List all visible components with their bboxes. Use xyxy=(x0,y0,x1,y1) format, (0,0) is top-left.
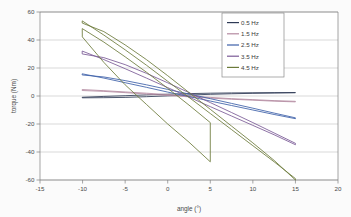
legend-label-3-5-hz: 3.5 Hz xyxy=(241,53,259,60)
x-tick-label: 10 xyxy=(249,185,256,192)
legend-label-0-5-hz: 0.5 Hz xyxy=(241,19,259,26)
x-tick-label: 0 xyxy=(166,185,170,192)
x-axis-title: angle (°) xyxy=(177,205,201,213)
y-tick-label: 20 xyxy=(28,64,35,71)
legend-label-4-5-hz: 4.5 Hz xyxy=(241,64,259,71)
legend-label-1-5-hz: 1.5 Hz xyxy=(241,30,259,37)
x-tick-label: 20 xyxy=(335,185,342,192)
y-tick-label: 40 xyxy=(28,36,35,43)
chart-container: -15-10-505101520 -60-40-200204060 angle … xyxy=(0,0,351,217)
y-tick-label: -60 xyxy=(26,176,36,183)
x-tick-label: -5 xyxy=(122,185,128,192)
y-tick-label: -40 xyxy=(26,148,36,155)
y-tick-label: 0 xyxy=(31,92,35,99)
x-tick-label: -10 xyxy=(78,185,88,192)
y-tick-label: 60 xyxy=(28,8,35,15)
x-tick-label: 5 xyxy=(209,185,213,192)
y-tick-label: -20 xyxy=(26,120,36,127)
torque-angle-chart: -15-10-505101520 -60-40-200204060 angle … xyxy=(0,0,351,217)
y-axis-title: torque (Nm) xyxy=(10,79,18,113)
chart-legend: 0.5 Hz1.5 Hz2.5 Hz3.5 Hz4.5 Hz xyxy=(222,13,284,77)
legend-label-2-5-hz: 2.5 Hz xyxy=(241,41,259,48)
x-tick-label: -15 xyxy=(36,185,46,192)
x-tick-label: 15 xyxy=(292,185,299,192)
